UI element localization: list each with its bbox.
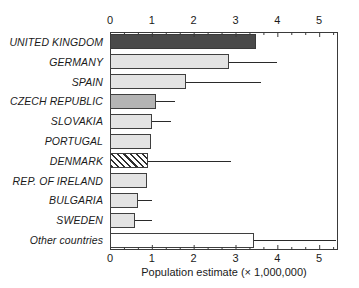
tick-label: 1 — [149, 252, 155, 264]
tick-label: 5 — [316, 14, 322, 26]
bar — [110, 213, 135, 228]
bar — [110, 233, 254, 248]
category-label: PORTUGAL — [45, 135, 103, 147]
category-label: REP. OF IRELAND — [13, 175, 103, 187]
tick-label: 0 — [107, 252, 113, 264]
tick-label: 3 — [232, 14, 238, 26]
x-axis-title: Population estimate (× 1,000,000) — [110, 266, 338, 278]
bar — [110, 94, 156, 109]
bar — [110, 134, 151, 149]
category-label: Other countries — [30, 234, 103, 246]
bar — [110, 153, 148, 168]
tick-label: 1 — [149, 14, 155, 26]
tick-label: 2 — [191, 14, 197, 26]
category-label: CZECH REPUBLIC — [10, 95, 103, 107]
bar — [110, 173, 147, 188]
bars-layer — [110, 32, 338, 250]
tick-label: 4 — [274, 252, 280, 264]
category-label: UNITED KINGDOM — [9, 36, 103, 48]
bar — [110, 193, 138, 208]
category-label: BULGARIA — [49, 194, 103, 206]
tick-label: 3 — [232, 252, 238, 264]
bar — [110, 34, 256, 49]
tick-label: 4 — [274, 14, 280, 26]
category-axis-labels: UNITED KINGDOMGERMANYSPAINCZECH REPUBLIC… — [0, 32, 107, 250]
population-estimate-bar-chart: UNITED KINGDOMGERMANYSPAINCZECH REPUBLIC… — [0, 0, 359, 288]
tick-label: 2 — [191, 252, 197, 264]
category-label: DENMARK — [50, 155, 103, 167]
category-label: GERMANY — [49, 56, 103, 68]
bar — [110, 114, 152, 129]
category-label: SWEDEN — [56, 214, 103, 226]
bar — [110, 54, 229, 69]
tick-label: 5 — [316, 252, 322, 264]
bar — [110, 74, 186, 89]
tick-label: 0 — [107, 14, 113, 26]
category-label: SLOVAKIA — [51, 115, 103, 127]
category-label: SPAIN — [72, 76, 103, 88]
